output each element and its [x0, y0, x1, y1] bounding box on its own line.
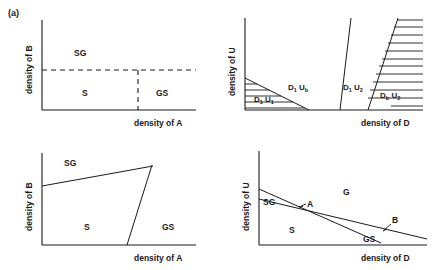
panel-d-plot: SG S G GS A B density of D density of U — [215, 133, 438, 270]
panel-a-region-sg: SG — [74, 48, 87, 58]
panel-d-region-s: S — [289, 225, 295, 235]
panel-d-curve-label-a: A — [307, 199, 313, 209]
panel-b-region-s: S — [84, 222, 90, 232]
panel-d-boundary-b — [259, 199, 427, 239]
panel-b-x-axis-label: density of A — [134, 253, 182, 263]
panel-d-y-axis-label: density of U — [241, 182, 251, 231]
panel-b-region-sg: SG — [64, 158, 77, 168]
panel-a-x-axis-label: density of A — [134, 118, 182, 128]
figure-four-phase-diagrams: (a) SG S GS density of A density of B (b… — [0, 0, 438, 270]
panel-b-boundary-sg — [42, 166, 153, 186]
panel-d-region-g: G — [343, 187, 350, 197]
panel-d-region-gs: GS — [363, 234, 376, 244]
panel-a-tag: (a) — [8, 8, 19, 18]
panel-a-region-s: S — [82, 88, 88, 98]
panel-a-plot: SG S GS density of A density of B — [0, 0, 219, 135]
panel-a-region-gs: GS — [156, 88, 169, 98]
panel-a-y-axis-label: density of B — [24, 45, 34, 94]
panel-b-plot: SG S GS density of A density of B — [0, 133, 219, 270]
panel-c-boundary-middle — [340, 18, 351, 110]
panel-d-x-axis-label: density of D — [361, 253, 410, 263]
panel-a: (a) SG S GS density of A density of B — [0, 0, 219, 135]
panel-c-y-axis-label: density of U — [227, 47, 237, 96]
panel-b: (b) SG S GS density of A density of B — [0, 133, 219, 270]
panel-c-x-axis-label: density of D — [361, 118, 410, 128]
panel-b-y-axis-label: density of B — [24, 182, 34, 231]
panel-c-region-d1ub: D1 Ub — [288, 83, 309, 93]
panel-c-region-d1u2: D1 U2 — [343, 83, 363, 93]
panel-d-pointer-a-head — [299, 207, 303, 208]
panel-c-region-d1u1: D1 U1 — [254, 95, 274, 105]
panel-b-boundary-gs — [127, 165, 152, 245]
panel-d-curve-label-b: B — [392, 215, 398, 225]
panel-b-region-gs: GS — [162, 222, 175, 232]
panel-d-region-sg: SG — [263, 197, 276, 207]
panel-c-region-dbu2: Db U2 — [380, 91, 400, 101]
panel-c-plot: D1 U1 D1 Ub D1 U2 Db U2 density of D den… — [215, 0, 438, 135]
panel-c: (c) — [215, 0, 438, 135]
panel-d: (d) SG S G GS A B density of D — [215, 133, 438, 270]
